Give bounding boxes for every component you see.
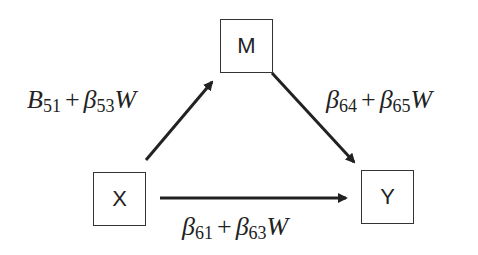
node-y: Y xyxy=(361,170,414,224)
node-m: M xyxy=(220,19,273,73)
edge-label-x-m: B51+β53W xyxy=(27,85,136,117)
node-y-label: Y xyxy=(380,184,395,210)
node-x: X xyxy=(93,172,146,226)
edge-label-m-y: β64+β65W xyxy=(326,85,432,117)
node-m-label: M xyxy=(237,33,255,59)
edge-x-to-m xyxy=(146,82,212,160)
node-x-label: X xyxy=(112,186,127,212)
edge-label-x-y: β61+β63W xyxy=(182,212,288,244)
